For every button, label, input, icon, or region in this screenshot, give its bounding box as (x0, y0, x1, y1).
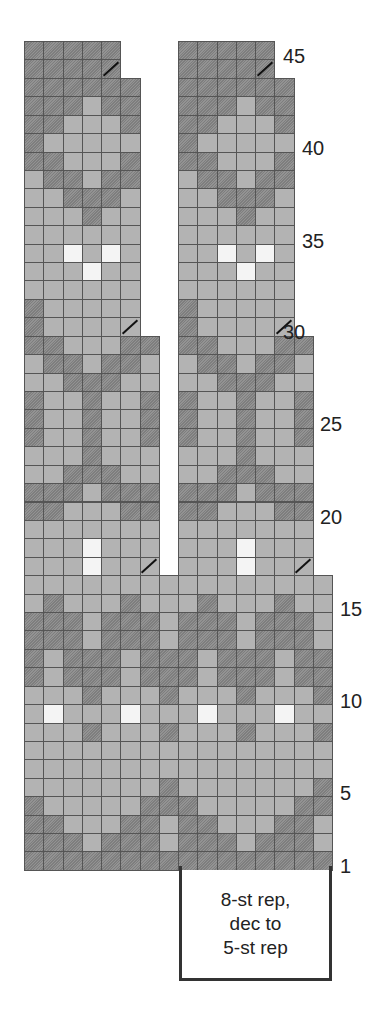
chart-cell (82, 78, 102, 97)
chart-cell (82, 336, 102, 355)
chart-cell (217, 41, 237, 60)
chart-cell (63, 115, 83, 134)
chart-cell (217, 686, 237, 705)
chart-cell (217, 612, 237, 631)
chart-cell (120, 373, 140, 392)
chart-cell (24, 575, 44, 594)
chart-cell (294, 778, 314, 797)
chart-cell (255, 575, 275, 594)
chart-cell (274, 851, 294, 870)
chart-cell (197, 170, 217, 189)
chart-cell (236, 815, 256, 834)
chart-cell (43, 686, 63, 705)
chart-cell (217, 502, 237, 521)
row-label-45: 45 (283, 46, 305, 66)
chart-cell (274, 207, 294, 226)
chart-cell (140, 446, 160, 465)
chart-cell (101, 557, 121, 576)
chart-cell (101, 465, 121, 484)
chart-cell (217, 630, 237, 649)
chart-cell (82, 796, 102, 815)
chart-cell (63, 428, 83, 447)
chart-cell (178, 446, 198, 465)
chart-cell (101, 96, 121, 115)
chart-cell (24, 115, 44, 134)
chart-cell (82, 262, 102, 281)
chart-cell (120, 649, 140, 668)
chart-cell (82, 317, 102, 336)
chart-cell (236, 667, 256, 686)
chart-cell (82, 96, 102, 115)
chart-cell (24, 594, 44, 613)
chart-cell (178, 465, 198, 484)
chart-cell (63, 778, 83, 797)
chart-cell (43, 115, 63, 134)
chart-cell (24, 538, 44, 557)
chart-cell (294, 851, 314, 870)
chart-cell (313, 686, 333, 705)
chart-cell (197, 686, 217, 705)
chart-cell (101, 188, 121, 207)
chart-cell (43, 557, 63, 576)
chart-cell (24, 483, 44, 502)
chart-cell (274, 446, 294, 465)
chart-cell (236, 796, 256, 815)
chart-cell (120, 630, 140, 649)
chart-cell (217, 391, 237, 410)
chart-cell (236, 207, 256, 226)
chart-cell (101, 280, 121, 299)
chart-cell (178, 299, 198, 318)
chart-cell (236, 152, 256, 171)
chart-cell (24, 280, 44, 299)
chart-cell (63, 520, 83, 539)
chart-cell (197, 428, 217, 447)
chart-cell (236, 741, 256, 760)
chart-cell (120, 594, 140, 613)
chart-cell (313, 630, 333, 649)
chart-cell (197, 78, 217, 97)
chart-cell (217, 465, 237, 484)
chart-cell (178, 96, 198, 115)
chart-cell (159, 778, 179, 797)
chart-cell (101, 741, 121, 760)
chart-cell (140, 741, 160, 760)
chart-cell (197, 280, 217, 299)
chart-cell (101, 115, 121, 134)
chart-cell (63, 152, 83, 171)
chart-cell (217, 520, 237, 539)
chart-cell (120, 833, 140, 852)
chart-cell (197, 612, 217, 631)
chart-cell (236, 612, 256, 631)
chart-cell (101, 262, 121, 281)
chart-cell (43, 796, 63, 815)
chart-cell (101, 133, 121, 152)
chart-cell (82, 152, 102, 171)
chart-cell (217, 723, 237, 742)
chart-cell (255, 409, 275, 428)
chart-cell (197, 796, 217, 815)
chart-cell (101, 630, 121, 649)
chart-cell (159, 723, 179, 742)
chart-cell (24, 557, 44, 576)
chart-cell (82, 170, 102, 189)
chart-cell (274, 686, 294, 705)
chart-cell (178, 225, 198, 244)
chart-cell (159, 686, 179, 705)
chart-cell (236, 520, 256, 539)
chart-cell (217, 373, 237, 392)
chart-cell (24, 96, 44, 115)
chart-cell (236, 391, 256, 410)
chart-cell (236, 649, 256, 668)
chart-cell (197, 520, 217, 539)
chart-cell (120, 262, 140, 281)
chart-cell (63, 188, 83, 207)
chart-cell (43, 96, 63, 115)
chart-cell (101, 152, 121, 171)
chart-cell (24, 207, 44, 226)
chart-cell (101, 649, 121, 668)
chart-cell (217, 796, 237, 815)
chart-cell (120, 465, 140, 484)
chart-cell (217, 851, 237, 870)
chart-cell (63, 502, 83, 521)
chart-cell (43, 188, 63, 207)
